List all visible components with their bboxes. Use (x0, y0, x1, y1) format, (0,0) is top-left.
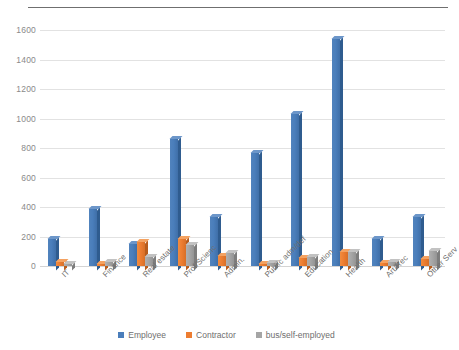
bar-face (259, 264, 267, 266)
legend-item[interactable]: Contractor (186, 330, 236, 340)
legend-label: bus/self-employed (266, 330, 335, 340)
bar[interactable] (218, 256, 226, 266)
bar-face (97, 264, 105, 266)
bar[interactable] (178, 239, 186, 266)
bar-group-bars (202, 30, 243, 266)
bar[interactable] (210, 217, 218, 266)
bar-face (251, 153, 259, 266)
bar-group (162, 30, 203, 266)
x-axis-category: Finance (81, 268, 122, 322)
x-axis-category-label: IT (60, 268, 72, 280)
x-axis-category: Prof/Scienc (162, 268, 203, 322)
bar-group (121, 30, 162, 266)
legend-item[interactable]: Employee (118, 330, 166, 340)
legend-label: Employee (128, 330, 166, 340)
bar[interactable] (340, 252, 348, 266)
bar[interactable] (332, 39, 340, 266)
bar-group (202, 30, 243, 266)
bar[interactable] (48, 239, 56, 266)
y-axis-tick-label: 0 (0, 261, 36, 271)
bar-face (332, 39, 340, 266)
bar-group-bars (324, 30, 365, 266)
plot-area (40, 30, 445, 266)
y-axis-tick-label: 1600 (0, 25, 36, 35)
chart-legend: EmployeeContractorbus/self-employed (0, 330, 453, 340)
y-axis-tick-label: 1000 (0, 114, 36, 124)
x-axis-category: Public adm/def (243, 268, 284, 322)
bar-face (340, 252, 348, 266)
top-divider-rule (28, 7, 448, 8)
x-axis-line (40, 266, 445, 267)
bar-side-face (259, 152, 262, 271)
y-axis-tick-label: 1200 (0, 84, 36, 94)
legend-swatch-icon (256, 332, 262, 338)
bar-group-bars (283, 30, 324, 266)
bar[interactable] (380, 263, 388, 266)
bar[interactable] (421, 259, 429, 266)
bar-group-bars (81, 30, 122, 266)
x-axis-category: Education (283, 268, 324, 322)
bar[interactable] (137, 242, 145, 266)
x-axis-category-labels: ITFinanceReal estateProf/SciencAdmin.Pub… (40, 268, 445, 322)
bar-group-bars (405, 30, 446, 266)
legend-item[interactable]: bus/self-employed (256, 330, 335, 340)
bar-group-bars (162, 30, 203, 266)
x-axis-category: Admin. (202, 268, 243, 322)
x-axis-category: Real estate (121, 268, 162, 322)
bar-side-face (340, 37, 343, 270)
bar-group (81, 30, 122, 266)
bar-group-bars (121, 30, 162, 266)
bar-group (243, 30, 284, 266)
y-axis-tick-label: 600 (0, 173, 36, 183)
legend-swatch-icon (118, 332, 124, 338)
y-axis-tick-label: 200 (0, 232, 36, 242)
y-axis-tick-label: 800 (0, 143, 36, 153)
bar[interactable] (89, 209, 97, 266)
x-axis-category: Health (324, 268, 365, 322)
bar-group (405, 30, 446, 266)
bar-group (364, 30, 405, 266)
bar-group-bars (243, 30, 284, 266)
bar[interactable] (97, 264, 105, 266)
bar-group (40, 30, 81, 266)
bar-groups (40, 30, 445, 266)
bar[interactable] (251, 153, 259, 266)
x-axis-category: Other Serv (405, 268, 446, 322)
legend-swatch-icon (186, 332, 192, 338)
y-axis-tick-label: 400 (0, 202, 36, 212)
y-axis-tick-labels: 02004006008001000120014001600 (0, 30, 36, 266)
bar[interactable] (64, 264, 72, 266)
bar[interactable] (299, 258, 307, 266)
bar-group-bars (364, 30, 405, 266)
legend-label: Contractor (196, 330, 236, 340)
bar[interactable] (259, 264, 267, 266)
bar[interactable] (129, 244, 137, 266)
x-axis-category: IT (40, 268, 81, 322)
x-axis-category: Art/Rec (364, 268, 405, 322)
bar-face (89, 209, 97, 266)
y-axis-tick-label: 1400 (0, 55, 36, 65)
bar-group (324, 30, 365, 266)
bar-group-bars (40, 30, 81, 266)
bar-face (178, 239, 186, 266)
bar-face (421, 259, 429, 266)
bar-group (283, 30, 324, 266)
